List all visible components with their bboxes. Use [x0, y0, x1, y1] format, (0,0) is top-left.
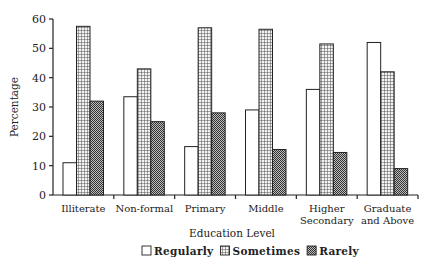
- bar-sometimes: [198, 28, 212, 195]
- legend-label: Rarely: [319, 245, 359, 257]
- bar-group: [306, 44, 347, 195]
- x-axis-title: Education Level: [189, 227, 276, 239]
- bar-regularly: [246, 110, 260, 195]
- y-tick-label: 30: [32, 101, 46, 114]
- legend-item-sometimes: Sometimes: [221, 245, 301, 257]
- bar-group: [367, 42, 408, 195]
- y-tick-label: 60: [32, 13, 46, 26]
- bar-rarely: [394, 169, 408, 195]
- y-tick-label: 10: [32, 160, 46, 173]
- bar-rarely: [151, 122, 165, 195]
- legend-label: Regularly: [154, 245, 214, 257]
- y-tick-label: 20: [32, 130, 46, 143]
- bar-group: [246, 29, 287, 195]
- bar-regularly: [63, 163, 77, 195]
- x-tick-label: Graduate: [364, 203, 412, 214]
- bar-sometimes: [137, 69, 151, 195]
- legend-item-regularly: Regularly: [142, 245, 214, 257]
- bar-group: [63, 26, 104, 195]
- x-tick-label: Illiterate: [61, 203, 105, 214]
- bar-sometimes: [259, 29, 273, 195]
- x-axis: [53, 195, 418, 199]
- x-tick-label: Non-formal: [115, 203, 173, 214]
- bar-regularly: [185, 147, 199, 195]
- bar-rarely: [273, 150, 287, 195]
- bar-regularly: [306, 89, 320, 195]
- y-axis: 0102030405060: [32, 13, 53, 202]
- legend-item-rarely: Rarely: [307, 245, 359, 257]
- y-tick-label: 0: [39, 189, 46, 202]
- category-labels: IlliterateNon-formalPrimaryMiddleHigherS…: [61, 203, 414, 226]
- bar-group: [185, 28, 226, 195]
- bar-regularly: [124, 97, 138, 195]
- bar-rarely: [212, 113, 226, 195]
- legend-swatch: [221, 246, 230, 255]
- x-tick-label: Primary: [185, 203, 226, 214]
- legend: RegularlySometimesRarely: [142, 245, 360, 257]
- x-tick-label: Higher: [309, 203, 345, 214]
- y-tick-label: 50: [32, 42, 46, 55]
- bar-sometimes: [320, 44, 334, 195]
- bar-regularly: [367, 42, 381, 195]
- y-axis-title: Percentage: [8, 77, 20, 137]
- bar-chart: 0102030405060 IlliterateNon-formalPrimar…: [0, 0, 434, 258]
- bar-rarely: [333, 152, 347, 195]
- bar-rarely: [90, 101, 104, 195]
- x-tick-label: and Above: [361, 215, 414, 226]
- y-tick-label: 40: [32, 72, 46, 85]
- x-tick-label: Secondary: [300, 215, 354, 226]
- x-tick-label: Middle: [248, 203, 283, 214]
- bar-group: [124, 69, 164, 195]
- legend-swatch: [142, 246, 151, 255]
- bar-sometimes: [381, 72, 395, 195]
- bars: [63, 26, 408, 195]
- legend-swatch: [307, 246, 316, 255]
- legend-label: Sometimes: [233, 245, 301, 257]
- bar-sometimes: [77, 26, 91, 195]
